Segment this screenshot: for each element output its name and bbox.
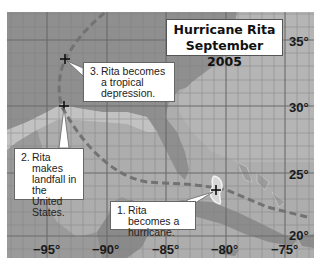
- map-title-line1: Hurricane Rita: [167, 22, 282, 38]
- lon-label-90: −90°: [92, 242, 119, 257]
- lon-label-95: −95°: [33, 242, 60, 257]
- lon-label-75: −75°: [271, 242, 298, 257]
- lat-label-25: 25°: [289, 167, 309, 182]
- lon-label-85: −85°: [152, 242, 179, 257]
- lat-label-30: 30°: [289, 100, 309, 115]
- callout-text: Rita becomes a hurricane.: [128, 205, 191, 238]
- lon-label-80: −80°: [211, 242, 238, 257]
- map-title: Hurricane Rita September 2005: [166, 19, 283, 56]
- callout-number: 2.: [21, 152, 30, 163]
- callout-number: 3.: [90, 66, 99, 77]
- callout-number: 1.: [117, 205, 126, 216]
- callout-text: Rita becomes a tropical depression.: [101, 66, 170, 99]
- callout-landfall: 2. Rita makes landfall in the United Sta…: [14, 148, 84, 200]
- callout-tropical-depression: 3. Rita becomes a tropical depression.: [83, 62, 175, 102]
- callout-hurricane: 1. Rita becomes a hurricane.: [110, 201, 196, 230]
- map-title-line2: September 2005: [167, 38, 282, 70]
- callout-text: Rita makes landfall in the United States…: [32, 152, 79, 218]
- hurricane-rita-map: 3. Rita becomes a tropical depression. 2…: [7, 12, 314, 258]
- lat-label-20: 20°: [289, 228, 309, 243]
- lat-label-35: 35°: [289, 34, 309, 49]
